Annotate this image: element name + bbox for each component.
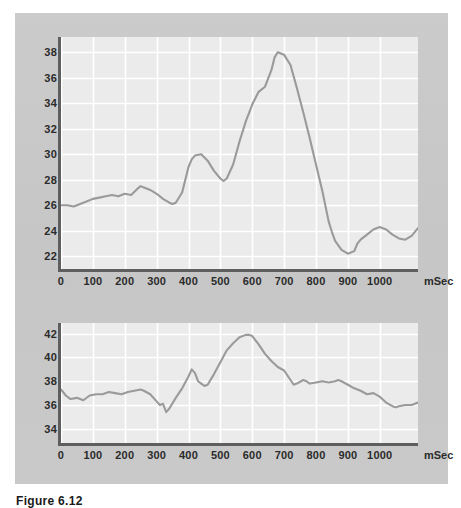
chart-top-plot-area bbox=[61, 37, 418, 269]
chart-bottom-x-tick-300: 300 bbox=[147, 449, 166, 461]
chart-bottom-x-tick-900: 900 bbox=[338, 449, 357, 461]
figure-caption: Figure 6.12 bbox=[16, 494, 83, 508]
chart-top-x-tick-0: 0 bbox=[58, 275, 64, 287]
chart-top-y-tick-30: 30 bbox=[44, 148, 57, 160]
chart-bottom-x-unit-label: mSec bbox=[424, 449, 453, 461]
chart-bottom-x-tick-100: 100 bbox=[83, 449, 102, 461]
chart-bottom-x-tick-500: 500 bbox=[211, 449, 230, 461]
chart-bottom-x-axis-line bbox=[58, 443, 418, 446]
chart-bottom-x-tick-400: 400 bbox=[179, 449, 198, 461]
chart-top-y-tick-32: 32 bbox=[44, 123, 57, 135]
chart-top-x-tick-300: 300 bbox=[147, 275, 166, 287]
chart-bottom-x-tick-700: 700 bbox=[275, 449, 294, 461]
chart-top-y-tick-34: 34 bbox=[44, 97, 57, 109]
chart-bottom-x-tick-1000: 1000 bbox=[367, 449, 392, 461]
chart-bottom-y-axis-line bbox=[58, 323, 61, 446]
chart-bottom-x-tick-800: 800 bbox=[307, 449, 326, 461]
chart-bottom-y-tick-34: 34 bbox=[44, 423, 57, 435]
chart-top-x-tick-800: 800 bbox=[307, 275, 326, 287]
chart-bottom-x-tick-200: 200 bbox=[115, 449, 134, 461]
chart-top-y-tick-24: 24 bbox=[44, 225, 57, 237]
chart-top-y-tick-26: 26 bbox=[44, 199, 57, 211]
chart-bottom-y-tick-42: 42 bbox=[44, 328, 57, 340]
chart-top-line-svg bbox=[61, 37, 418, 269]
chart-top-x-tick-900: 900 bbox=[338, 275, 357, 287]
chart-bottom-line-svg bbox=[61, 323, 418, 443]
chart-top-x-tick-600: 600 bbox=[243, 275, 262, 287]
chart-top-x-tick-1000: 1000 bbox=[367, 275, 392, 287]
figure-panel: 222426283032343638 010020030040050060070… bbox=[15, 13, 448, 484]
chart-top-x-axis-line bbox=[58, 269, 418, 272]
chart-top-x-tick-400: 400 bbox=[179, 275, 198, 287]
chart-top-x-unit-label: mSec bbox=[424, 275, 453, 287]
chart-top-y-axis-labels: 222426283032343638 bbox=[15, 21, 61, 306]
chart-bottom-x-axis-labels: 01002003004005006007008009001000mSec bbox=[15, 449, 448, 465]
chart-top-y-axis-line bbox=[58, 37, 61, 272]
chart-top-x-tick-500: 500 bbox=[211, 275, 230, 287]
chart-top-x-axis-labels: 01002003004005006007008009001000mSec bbox=[15, 275, 448, 291]
chart-bottom-plot-area bbox=[61, 323, 418, 443]
chart-top-y-tick-22: 22 bbox=[44, 250, 57, 262]
chart-top-x-tick-200: 200 bbox=[115, 275, 134, 287]
chart-bottom-y-tick-36: 36 bbox=[44, 399, 57, 411]
chart-top-y-tick-38: 38 bbox=[44, 46, 57, 58]
chart-bottom-x-tick-0: 0 bbox=[58, 449, 64, 461]
chart-top-y-tick-28: 28 bbox=[44, 174, 57, 186]
chart-top: 222426283032343638 010020030040050060070… bbox=[15, 21, 448, 306]
chart-bottom-y-tick-40: 40 bbox=[44, 351, 57, 363]
chart-bottom: 3436384042 01002003004005006007008009001… bbox=[15, 313, 448, 478]
chart-top-y-tick-36: 36 bbox=[44, 72, 57, 84]
chart-bottom-x-tick-600: 600 bbox=[243, 449, 262, 461]
chart-top-x-tick-700: 700 bbox=[275, 275, 294, 287]
chart-bottom-y-tick-38: 38 bbox=[44, 375, 57, 387]
chart-top-x-tick-100: 100 bbox=[83, 275, 102, 287]
